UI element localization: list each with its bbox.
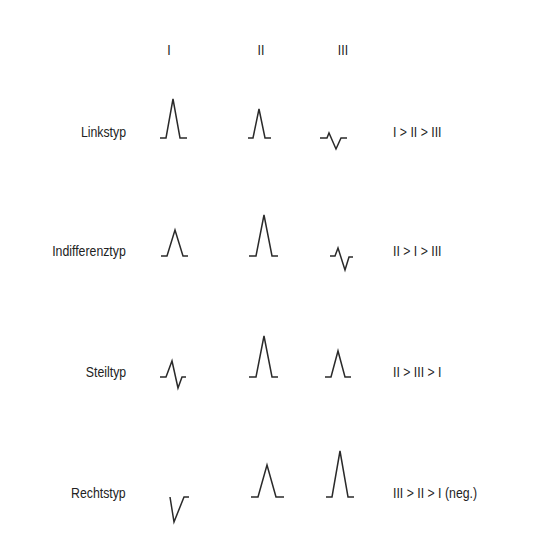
qrs-wave-indifferenztyp-lead-iii — [330, 248, 353, 270]
qrs-wave-rechtstyp-lead-ii — [251, 465, 284, 497]
waves-rechtstyp — [170, 451, 354, 522]
qrs-wave-linkstyp-lead-iii — [320, 133, 347, 149]
qrs-wave-steiltyp-lead-i — [160, 361, 186, 388]
qrs-waveforms — [0, 0, 533, 553]
waves-indifferenztyp — [161, 215, 353, 270]
qrs-wave-rechtstyp-lead-i — [170, 497, 189, 522]
qrs-wave-indifferenztyp-lead-ii — [249, 215, 278, 256]
qrs-wave-rechtstyp-lead-iii — [326, 451, 354, 497]
qrs-wave-steiltyp-lead-ii — [249, 336, 278, 377]
qrs-wave-linkstyp-lead-ii — [248, 109, 271, 138]
waves-linkstyp — [160, 99, 347, 149]
qrs-wave-linkstyp-lead-i — [160, 99, 187, 138]
qrs-wave-steiltyp-lead-iii — [325, 351, 351, 377]
ecg-axis-diagram: I II III Linkstyp Indifferenztyp Steilty… — [0, 0, 533, 553]
qrs-wave-indifferenztyp-lead-i — [161, 230, 188, 256]
waves-steiltyp — [160, 336, 351, 388]
